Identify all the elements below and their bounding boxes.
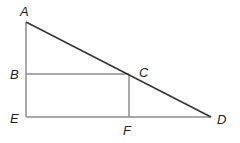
label-c: C — [139, 65, 149, 80]
label-f: F — [123, 123, 132, 138]
label-a: A — [19, 4, 29, 19]
label-e: E — [10, 111, 19, 126]
segment-ad — [26, 22, 211, 117]
label-b: B — [10, 67, 19, 82]
label-d: D — [217, 112, 226, 127]
triangle-diagram: A B C D E F — [0, 0, 240, 143]
